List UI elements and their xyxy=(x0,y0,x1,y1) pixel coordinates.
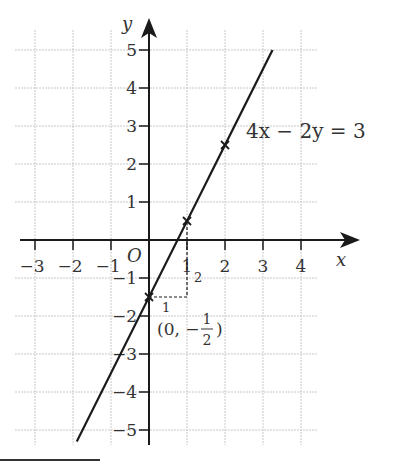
x-tick-label: −2 xyxy=(57,256,82,276)
svg-text:): ) xyxy=(216,319,223,339)
line-graph: −3−2−1123454321−1−2−3−4−5 y x O 1 2 4x −… xyxy=(0,0,404,467)
y-axis-label: y xyxy=(121,13,133,34)
grid xyxy=(15,30,318,445)
y-tick-label: 3 xyxy=(126,116,137,136)
y-tick-label: 2 xyxy=(126,154,137,174)
y-tick-label: −4 xyxy=(112,382,137,402)
x-tick-label: −3 xyxy=(19,256,44,276)
y-tick-label: 1 xyxy=(126,192,137,212)
equation-label: 4x − 2y = 3 xyxy=(246,119,366,143)
svg-text:(0, −: (0, − xyxy=(157,319,200,339)
y-tick-label: 5 xyxy=(126,40,137,60)
y-tick-label: 4 xyxy=(126,78,137,98)
x-tick-label: 4 xyxy=(296,256,307,276)
equation-line xyxy=(77,50,273,441)
y-tick-label: −5 xyxy=(112,420,137,440)
x-axis-label: x xyxy=(336,249,346,270)
x-tick-label: 3 xyxy=(258,256,269,276)
origin-label: O xyxy=(127,245,142,266)
svg-text:2: 2 xyxy=(203,332,212,348)
y-tick-label: −2 xyxy=(112,306,137,326)
y-tick-label: −1 xyxy=(112,268,137,288)
y-axis xyxy=(141,18,157,445)
svg-text:1: 1 xyxy=(203,311,212,327)
rise-label: 2 xyxy=(194,270,202,285)
x-tick-label: 2 xyxy=(220,256,231,276)
intercept-label: (0, − 1 2 ) xyxy=(157,311,223,348)
x-axis xyxy=(20,232,360,248)
run-label: 1 xyxy=(162,300,170,315)
